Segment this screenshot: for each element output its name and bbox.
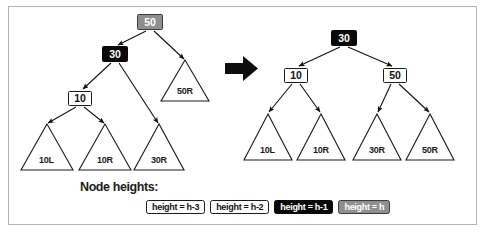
tree-edge-r-30-to-r-10 — [299, 47, 340, 66]
subtree-label-r-30R: 30R — [369, 146, 385, 155]
tree-edge-l-10-to-l-10R — [84, 107, 104, 123]
subtree-label-r-10R: 10R — [313, 146, 329, 155]
tree-edge-l-50-to-l-50R — [154, 31, 184, 59]
tree-edge-l-10-to-l-10L — [48, 107, 76, 123]
avl-rotation-figure: 503010301050 50R10L10R30R10L10R30R50R No… — [0, 0, 487, 236]
subtree-label-l-30R: 30R — [151, 156, 167, 165]
tree-edge-l-30-to-l-30R — [119, 63, 158, 123]
legend-title: Node heights: — [80, 180, 158, 194]
legend-chip-0: height = h-3 — [146, 200, 205, 214]
tree-edge-l-50-to-l-30 — [118, 31, 146, 45]
tree-edge-r-10-to-r-10L — [269, 84, 292, 112]
subtree-triangles-before — [21, 60, 209, 170]
subtree-label-r-10L: 10L — [260, 146, 275, 155]
legend-chips: height = h-3height = h-2height = h-1heig… — [146, 200, 390, 214]
tree-node-r-30: 30 — [331, 30, 357, 46]
tree-node-l-10: 10 — [68, 91, 92, 106]
subtree-label-l-10L: 10L — [39, 156, 54, 165]
tree-node-r-50: 50 — [383, 68, 407, 83]
subtree-label-l-50R: 50R — [177, 87, 193, 96]
tree-edge-r-50-to-r-50R — [399, 84, 429, 112]
subtree-label-r-50R: 50R — [422, 146, 438, 155]
subtree-label-l-10R: 10R — [97, 156, 113, 165]
tree-edge-l-30-to-l-10 — [83, 63, 111, 89]
right-arrow-icon — [225, 56, 258, 81]
tree-edge-r-30-to-r-50 — [348, 47, 392, 66]
legend-chip-2: height = h-1 — [274, 200, 333, 214]
legend-chip-1: height = h-2 — [210, 200, 269, 214]
tree-node-l-50: 50 — [137, 14, 163, 30]
tree-edge-r-50-to-r-30R — [378, 84, 391, 112]
tree-edge-r-10-to-r-10R — [300, 84, 320, 112]
tree-node-r-10: 10 — [284, 68, 308, 83]
edges-before-rotation — [48, 31, 184, 123]
tree-node-l-30: 30 — [102, 46, 128, 62]
legend-chip-3: height = h — [338, 200, 390, 214]
